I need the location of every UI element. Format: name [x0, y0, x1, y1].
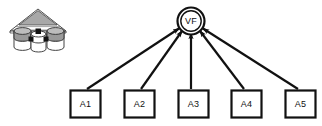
- database-cylinder-right-icon: [47, 28, 64, 51]
- arrow-a5-to-vf: [203, 29, 298, 90]
- indicator-a4[interactable]: A4: [232, 91, 262, 118]
- indicator-a1[interactable]: A1: [71, 91, 101, 118]
- path-diagram-svg: VF A1 A2 A3 A4 A5: [0, 0, 322, 126]
- indicator-a2[interactable]: A2: [125, 91, 155, 118]
- data-warehouse-icon: [10, 9, 66, 52]
- arrow-a1-to-vf: [87, 29, 179, 90]
- indicator-label: A2: [134, 99, 145, 109]
- factor-label: VF: [185, 16, 197, 26]
- indicator-a3[interactable]: A3: [179, 91, 209, 118]
- latent-factor-vf[interactable]: VF: [178, 8, 205, 35]
- indicator-a5[interactable]: A5: [286, 91, 316, 118]
- database-cylinder-left-icon: [14, 28, 31, 51]
- diagram-canvas: VF A1 A2 A3 A4 A5: [0, 0, 322, 126]
- arrow-group: [87, 29, 298, 90]
- indicator-label: A3: [188, 99, 199, 109]
- indicator-label: A5: [295, 99, 306, 109]
- indicator-label: A4: [241, 99, 252, 109]
- indicator-label: A1: [80, 99, 91, 109]
